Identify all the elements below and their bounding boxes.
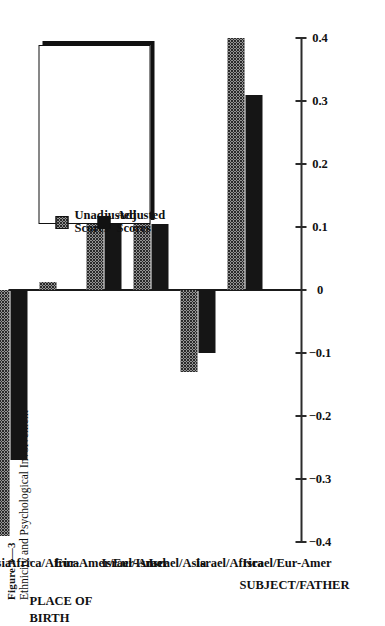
group-header-line1: PLACE OF <box>29 594 92 609</box>
axis-tick <box>295 352 306 354</box>
group-header-place-of-birth: PLACE OFBIRTH <box>29 594 92 626</box>
axis-tick <box>295 100 306 102</box>
axis-tick-label: −0.2 <box>308 409 331 424</box>
group-header-line2: BIRTH <box>29 611 92 626</box>
bar-unadjusted <box>39 282 56 290</box>
legend-swatch-adjusted <box>97 215 110 228</box>
axis-tick <box>295 541 306 543</box>
axis-tick <box>295 226 306 228</box>
category-label: Asia/Asia <box>0 556 11 571</box>
bar-unadjusted <box>180 290 197 372</box>
axis-tick-label: −0.4 <box>308 535 331 550</box>
axis-tick <box>295 478 306 480</box>
legend-label-adjusted-line2: Scores <box>116 221 151 235</box>
axis-tick <box>295 163 306 165</box>
axis-tick-label: 0 <box>316 283 322 298</box>
legend-label-adjusted-line1: Adjusted <box>116 208 165 222</box>
bar-unadjusted <box>0 290 9 536</box>
axis-tick-label: 0.1 <box>312 220 328 235</box>
bar-adjusted <box>198 290 215 353</box>
group-header-subject-father: SUBJECT/FATHER <box>239 578 349 593</box>
bar-adjusted <box>10 290 27 460</box>
axis-tick-label: 0.3 <box>312 94 328 109</box>
legend-item-adjusted: Adjusted Scores <box>97 209 165 235</box>
bar-unadjusted <box>227 38 244 290</box>
axis-tick-label: 0.2 <box>312 157 328 172</box>
legend-label-adjusted: Adjusted Scores <box>116 209 165 235</box>
axis-tick-label: −0.1 <box>308 346 331 361</box>
axis-tick <box>295 415 306 417</box>
chart-legend: Unadjusted Scores Adjusted Scores <box>38 45 150 223</box>
axis-tick-label: 0.4 <box>312 31 328 46</box>
category-label: Africa/Africa <box>7 556 79 571</box>
axis-tick <box>295 37 306 39</box>
bar-adjusted <box>245 95 262 290</box>
axis-tick-label: −0.3 <box>308 472 331 487</box>
legend-swatch-unadjusted <box>55 215 68 228</box>
